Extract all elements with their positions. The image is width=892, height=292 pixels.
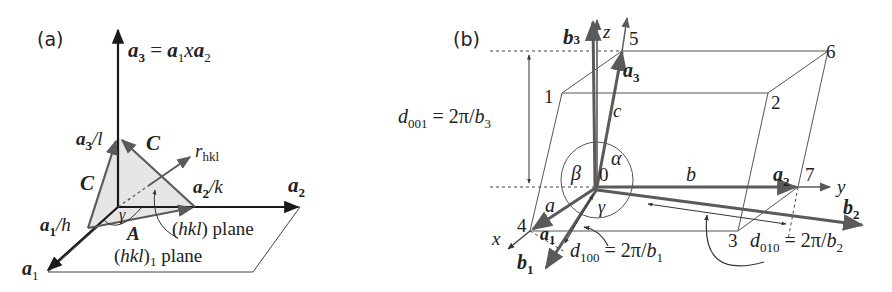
a3-equation: a3 = a1xa2 xyxy=(128,38,211,65)
y-axis-label: y xyxy=(835,176,846,197)
hkl-plane-label: (hkl) plane xyxy=(172,218,254,240)
a3-extension xyxy=(622,18,627,52)
panel-a: (a) a3 = a1xa2 a3/l C rhkl C xyxy=(22,28,305,283)
length-b-label: b xyxy=(686,163,696,185)
a1-intercept-label: a1/h xyxy=(40,214,71,239)
vertex-1: 1 xyxy=(544,86,554,107)
a1-vector-label: a1 xyxy=(540,224,556,247)
d100-arrow xyxy=(565,195,593,243)
vertex-2: 2 xyxy=(771,92,781,113)
d100-label: d100 = 2π/b1 xyxy=(570,239,663,265)
a2-intercept-label: a2/k xyxy=(193,176,223,201)
rhkl-label: rhkl xyxy=(195,140,219,164)
panel-b-label: (b) xyxy=(453,28,480,50)
hkl1-plane-label: (hkl)1 plane xyxy=(114,245,202,269)
beta-label: β xyxy=(570,162,581,185)
gamma-label: γ xyxy=(119,206,126,224)
d010-label: d010 = 2π/b2 xyxy=(750,229,843,255)
vertex-5: 5 xyxy=(629,28,639,49)
b2-vector xyxy=(597,190,862,225)
a1-vector xyxy=(533,187,597,229)
origin-label: 0 xyxy=(599,164,609,185)
a2-axis-label: a2 xyxy=(288,173,305,200)
edge-A-label: A xyxy=(126,223,140,244)
d001-label: d001 = 2π/b3 xyxy=(398,105,491,131)
length-a-label: a xyxy=(545,194,555,216)
hkl-plane-triangle xyxy=(88,137,195,228)
crystal-lattice-diagram: (a) a3 = a1xa2 a3/l C rhkl C xyxy=(0,0,892,292)
z-axis-label: z xyxy=(602,21,611,42)
edge-C-left-label: C xyxy=(80,171,95,195)
b3-label: b3 xyxy=(563,25,581,49)
a3-vector-label: a3 xyxy=(623,59,640,85)
b3-vector xyxy=(593,22,595,187)
unit-cell-edges xyxy=(530,51,828,231)
vertex-6: 6 xyxy=(826,41,836,62)
panel-b: (b) xyxy=(398,18,862,277)
x-axis-label: x xyxy=(491,228,501,249)
vertex-7: 7 xyxy=(805,164,815,185)
gamma-b-label: γ xyxy=(598,197,606,217)
length-c-label: c xyxy=(613,100,622,121)
a3-intercept-label: a3/l xyxy=(76,128,103,153)
a2-vector-label: a2 xyxy=(773,163,790,189)
a1-axis-label: a1 xyxy=(22,257,39,283)
vertex-3: 3 xyxy=(728,230,738,251)
alpha-label: α xyxy=(611,147,622,169)
edge-C-top-label: C xyxy=(146,131,161,155)
vertex-4: 4 xyxy=(517,215,527,236)
panel-a-label: (a) xyxy=(37,28,63,50)
b1-label: b1 xyxy=(517,251,534,277)
b2-label: b2 xyxy=(843,196,860,222)
